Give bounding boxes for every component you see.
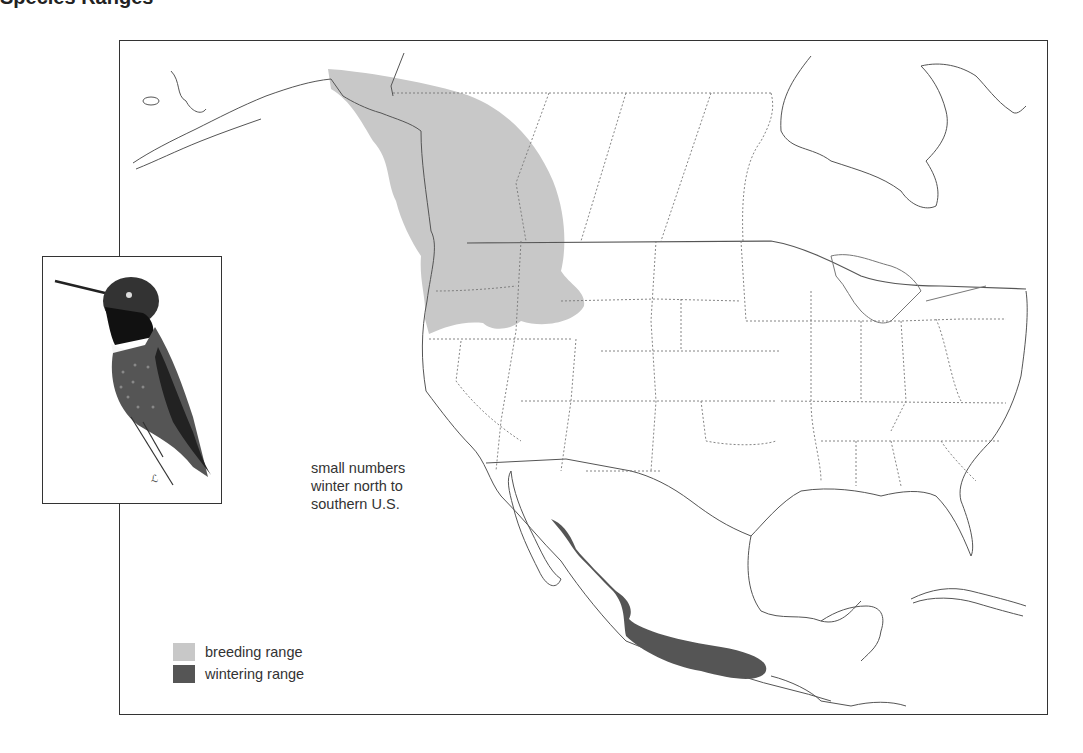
- annotation-line: southern U.S.: [311, 495, 405, 513]
- legend-label: breeding range: [205, 644, 303, 660]
- wintering-range-area: [551, 519, 766, 679]
- range-map: small numbers winter north to southern U…: [119, 40, 1048, 715]
- page-title: Species Ranges: [0, 0, 153, 9]
- map-legend: breeding range wintering range: [173, 641, 304, 685]
- hudson-bay: [781, 56, 948, 208]
- annotation-line: small numbers: [311, 459, 405, 477]
- baja-california: [508, 471, 561, 586]
- north-america-map: [120, 41, 1048, 715]
- breeding-swatch-icon: [173, 643, 195, 661]
- range-annotation: small numbers winter north to southern U…: [311, 459, 405, 513]
- legend-item-wintering: wintering range: [173, 663, 304, 685]
- yucatan: [821, 606, 883, 661]
- svg-text:ℒ: ℒ: [151, 473, 158, 484]
- legend-item-breeding: breeding range: [173, 641, 304, 663]
- cuba: [911, 589, 1026, 606]
- wintering-swatch-icon: [173, 665, 195, 683]
- hummingbird-icon: ℒ: [43, 257, 220, 502]
- gulf-coast: [751, 291, 1027, 556]
- breeding-range-area: [328, 69, 584, 334]
- legend-label: wintering range: [205, 666, 304, 682]
- annotation-line: winter north to: [311, 477, 405, 495]
- hummingbird-inset: ℒ: [42, 256, 222, 504]
- great-lakes: [831, 255, 921, 323]
